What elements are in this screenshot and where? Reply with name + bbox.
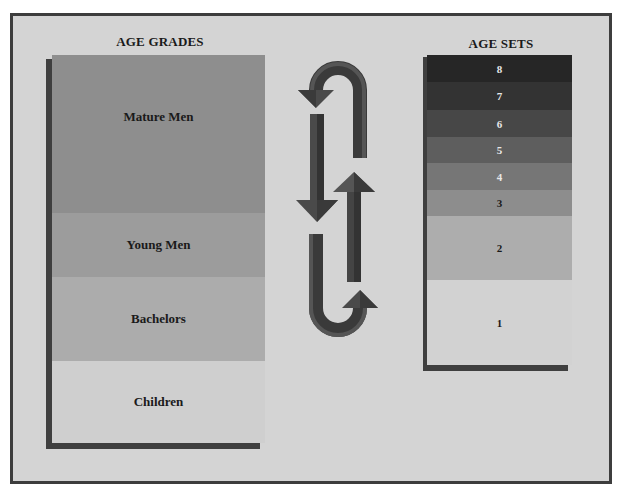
age-set-label: 6	[497, 118, 503, 130]
age-grades-title: AGE GRADES	[50, 34, 270, 50]
age-grades-bar: Mature Men Young Men Bachelors Children	[52, 55, 265, 443]
age-set-1: 1	[427, 280, 572, 365]
age-set-label: 2	[497, 242, 503, 254]
age-grade-mature-men: Mature Men	[52, 55, 265, 213]
up-arrow	[333, 172, 375, 282]
age-set-label: 3	[497, 197, 503, 209]
age-grades-shadow-bottom	[46, 443, 260, 449]
down-arrow	[296, 114, 338, 222]
age-grade-label: Bachelors	[131, 311, 186, 327]
age-set-label: 5	[497, 144, 503, 156]
age-grade-young-men: Young Men	[52, 213, 265, 277]
age-grade-label: Mature Men	[123, 109, 193, 125]
age-grade-label: Young Men	[127, 237, 191, 253]
age-sets-bar: 8 7 6 5 4 3 2 1	[427, 55, 572, 365]
bottom-hook-arrow	[311, 234, 378, 335]
age-grade-bachelors: Bachelors	[52, 277, 265, 361]
age-grade-children: Children	[52, 361, 265, 443]
cycle-arrows-icon	[288, 50, 388, 350]
age-set-2: 2	[427, 216, 572, 280]
age-set-label: 4	[497, 171, 503, 183]
age-set-5: 5	[427, 137, 572, 163]
age-set-label: 7	[497, 90, 503, 102]
age-sets-title: AGE SETS	[426, 36, 576, 52]
age-set-8: 8	[427, 55, 572, 82]
top-hook-arrow	[298, 64, 364, 158]
age-set-label: 8	[497, 63, 503, 75]
age-set-6: 6	[427, 110, 572, 137]
age-grade-label: Children	[134, 394, 184, 410]
age-set-label: 1	[497, 317, 503, 329]
age-set-4: 4	[427, 163, 572, 190]
age-set-7: 7	[427, 82, 572, 110]
age-sets-shadow-bottom	[423, 365, 568, 371]
age-set-3: 3	[427, 190, 572, 216]
